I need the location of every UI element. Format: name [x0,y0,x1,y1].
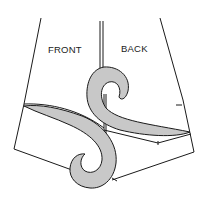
front-label: FRONT [48,44,82,55]
back-label: BACK [121,43,148,54]
french-curve [24,67,190,188]
tie-pattern-diagram: FRONT BACK [0,0,207,203]
